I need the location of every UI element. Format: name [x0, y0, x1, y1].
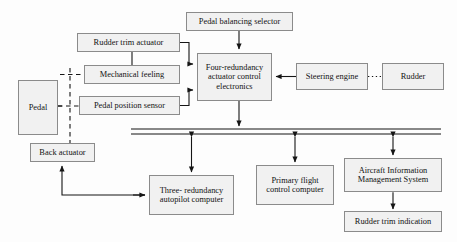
node-label: Rudder	[401, 72, 426, 81]
node-pedal[interactable]: Pedal	[18, 80, 58, 135]
node-pedal-balancing-selector[interactable]: Pedal balancing selector	[186, 12, 293, 31]
node-rudder[interactable]: Rudder	[382, 63, 444, 90]
node-label: Four-redundancy actuator control electro…	[200, 63, 269, 91]
wire-trim-to-ace	[180, 43, 193, 65]
node-pedal-position-sensor[interactable]: Pedal position sensor	[79, 96, 180, 115]
node-rudder-trim-actuator[interactable]: Rudder trim actuator	[77, 33, 180, 52]
node-three-redundancy-autopilot-computer[interactable]: Three- redundancy autopilot computer	[149, 175, 234, 215]
node-label: Aircraft Information Management System	[347, 166, 439, 185]
node-steering-engine[interactable]: Steering engine	[296, 63, 368, 90]
node-rudder-trim-indication[interactable]: Rudder trim indication	[344, 211, 442, 232]
node-label: Steering engine	[306, 72, 358, 81]
node-four-redundancy-actuator-control-electronics[interactable]: Four-redundancy actuator control electro…	[197, 53, 272, 101]
wire-sensor-to-ace	[180, 90, 193, 106]
node-label: Three- redundancy autopilot computer	[152, 186, 231, 205]
node-mechanical-feeling[interactable]: Mechanical feeling	[84, 65, 180, 84]
node-label: Rudder trim indication	[355, 217, 431, 226]
node-label: Back actuator	[39, 148, 85, 157]
node-label: Pedal position sensor	[94, 101, 165, 110]
node-label: Primary flight control computer	[259, 176, 331, 195]
node-label: Pedal	[29, 103, 48, 112]
node-primary-flight-control-computer[interactable]: Primary flight control computer	[256, 165, 334, 205]
node-label: Rudder trim actuator	[94, 38, 164, 47]
node-back-actuator[interactable]: Back actuator	[30, 143, 95, 162]
wire-autopilot-to-back-actuator	[62, 166, 145, 195]
node-label: Pedal balancing selector	[199, 17, 280, 26]
node-aircraft-information-management-system[interactable]: Aircraft Information Management System	[344, 158, 442, 192]
system-block-diagram: Pedal balancing selector Rudder trim act…	[0, 0, 457, 242]
node-label: Mechanical feeling	[100, 70, 164, 79]
